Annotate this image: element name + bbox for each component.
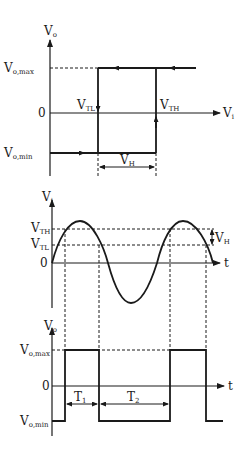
projection-lines — [65, 229, 206, 350]
vh-label: VH — [214, 231, 230, 246]
vi-axis-label: Vi — [222, 106, 235, 121]
input-waveform-plot: Vi t VTH VTL 0 VH — [30, 190, 230, 308]
schmitt-trigger-diagram: Vo Vi Vo,max 0 Vo,min VTL VTH VH Vi t VT… — [0, 0, 245, 452]
vomax-label: Vo,max — [19, 343, 50, 358]
vomin-label: Vo,min — [3, 146, 33, 161]
vtl-label: VTL — [76, 98, 95, 113]
vi-axis-label: Vi — [41, 190, 54, 205]
vomax-label: Vo,max — [3, 61, 34, 76]
t-axis-label: t — [224, 256, 229, 270]
vh-label: VH — [119, 153, 135, 168]
hysteresis-transfer-plot: Vo Vi Vo,max 0 Vo,min VTL VTH VH — [3, 24, 235, 176]
t-axis-label: t — [228, 379, 233, 393]
t1-label: T1 — [74, 390, 86, 405]
vo-axis-label: Vo — [43, 24, 57, 39]
zero-label: 0 — [40, 256, 48, 270]
vo-axis-label: Vo — [43, 319, 57, 334]
vth-label: VTH — [159, 98, 179, 113]
zero-label: 0 — [42, 379, 50, 393]
vtl-label: VTL — [30, 237, 49, 252]
output-waveform-plot: Vo t Vo,max 0 Vo,min T1 T2 — [19, 319, 233, 436]
zero-label: 0 — [38, 106, 46, 120]
vomin-label: Vo,min — [19, 414, 49, 429]
t2-label: T2 — [127, 390, 139, 405]
vth-label: VTH — [30, 221, 50, 236]
sine-input — [52, 221, 213, 303]
